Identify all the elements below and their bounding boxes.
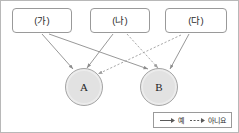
- legend-label-yes: 예: [178, 117, 184, 124]
- legend-entry-yes: 예: [160, 117, 184, 124]
- node-box-ga: (가): [12, 8, 72, 33]
- edge-ga-to-b: [49, 34, 148, 69]
- legend-label-no: 아니요: [208, 117, 226, 124]
- node-circle-b-label: B: [155, 82, 162, 93]
- node-box-na: (나): [90, 8, 150, 33]
- node-box-da-label: (다): [188, 16, 203, 26]
- node-circle-a: A: [65, 68, 103, 106]
- legend: 예 아니요: [153, 112, 232, 128]
- dashed-arrow-icon: [190, 117, 206, 124]
- node-circle-a-label: A: [80, 82, 88, 93]
- node-box-na-label: (나): [112, 16, 127, 26]
- solid-arrow-icon: [160, 117, 176, 124]
- edge-da-to-a: [98, 35, 181, 74]
- flowchart-figure: (가) (나) (다) A B 예 아니요: [0, 0, 239, 133]
- node-box-da: (다): [165, 8, 227, 33]
- legend-entry-no: 아니요: [190, 117, 226, 124]
- edge-ga-to-a: [42, 34, 73, 69]
- node-box-ga-label: (가): [34, 16, 49, 26]
- edge-na-to-a: [87, 34, 113, 68]
- node-circle-b: B: [140, 68, 178, 106]
